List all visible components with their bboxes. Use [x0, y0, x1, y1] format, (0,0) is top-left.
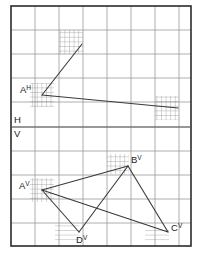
- figure-canvas: HVAHAVBVCVDV: [0, 0, 201, 255]
- plane-label-h: H: [14, 114, 21, 125]
- hatch-apex-top: [59, 30, 83, 54]
- projection-figure: HVAHAVBVCVDV: [0, 0, 201, 255]
- plane-label-v: V: [14, 128, 21, 139]
- hatch-c-v: [145, 228, 169, 242]
